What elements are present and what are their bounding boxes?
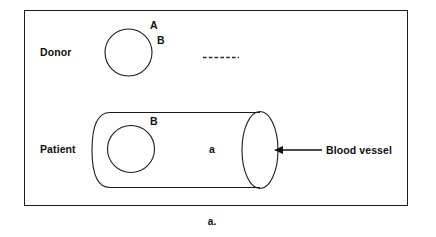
blood-transfusion-diagram: Donor A B Patient B a Blood vessel a. bbox=[0, 0, 436, 237]
patient-antigen-b-label: B bbox=[150, 115, 158, 127]
patient-red-cell bbox=[108, 126, 155, 173]
blood-vessel-annotation-label: Blood vessel bbox=[326, 144, 392, 156]
figure-panel: Donor A B Patient B a Blood vessel a. bbox=[0, 0, 436, 237]
patient-antibody-a-label: a bbox=[209, 143, 215, 155]
figure-caption: a. bbox=[208, 216, 217, 227]
patient-row-label: Patient bbox=[40, 143, 76, 155]
donor-row-label: Donor bbox=[40, 46, 71, 58]
donor-red-cell bbox=[105, 29, 152, 76]
donor-antigen-b-label: B bbox=[157, 34, 165, 46]
blood-vessel-cylinder-body bbox=[92, 113, 260, 188]
donor-antigen-a-label: A bbox=[150, 19, 158, 31]
diagram-border bbox=[25, 11, 408, 206]
blood-vessel-open-end bbox=[242, 112, 278, 189]
